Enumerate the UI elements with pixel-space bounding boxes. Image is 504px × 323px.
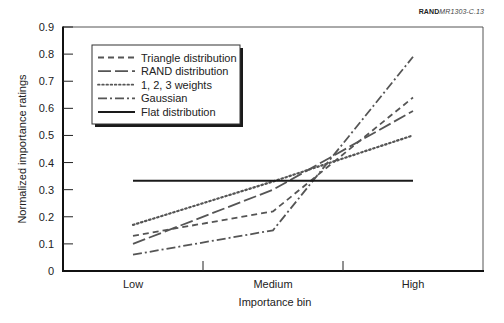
x-tick-label: Low: [123, 278, 143, 290]
y-tick-label: 0.7: [39, 75, 54, 87]
legend: Triangle distributionRAND distribution1,…: [92, 45, 243, 127]
legend-label: Flat distribution: [141, 106, 216, 118]
y-tick-label: 0.2: [39, 211, 54, 223]
legend-label: RAND distribution: [141, 65, 228, 77]
legend-label: 1, 2, 3 weights: [141, 79, 212, 91]
y-tick-label: 0.1: [39, 238, 54, 250]
series-rand-distribution: [133, 111, 413, 244]
x-tick-label: High: [402, 278, 425, 290]
legend-label: Triangle distribution: [141, 52, 237, 64]
y-tick-label: 0.8: [39, 48, 54, 60]
y-axis-title: Normalized importance ratings: [16, 74, 28, 224]
y-tick-label: 0.9: [39, 21, 54, 33]
x-axis-ticks: LowMediumHigh: [123, 261, 424, 290]
line-chart: 00.10.20.30.40.50.60.70.80.9 LowMediumHi…: [0, 0, 504, 323]
x-tick-label: Medium: [253, 278, 292, 290]
y-tick-label: 0: [48, 265, 54, 277]
y-tick-label: 0.3: [39, 184, 54, 196]
x-axis-title: Importance bin: [239, 296, 312, 308]
y-tick-label: 0.5: [39, 129, 54, 141]
y-axis-ticks: 00.10.20.30.40.50.60.70.80.9: [39, 21, 73, 277]
y-tick-label: 0.4: [39, 157, 54, 169]
legend-label: Gaussian: [141, 92, 187, 104]
y-tick-label: 0.6: [39, 102, 54, 114]
